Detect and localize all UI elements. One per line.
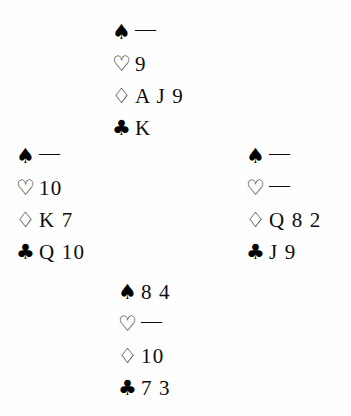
hand-south: ♠ 8 4 ♡ — ♢ 10 ♣ 7 3: [118, 282, 171, 410]
bridge-deal-diagram: ♠ — ♡ 9 ♢ A J 9 ♣ K ♠ — ♡ 10 ♢ K 7 ♣: [0, 0, 351, 416]
heart-icon: ♡: [112, 54, 135, 75]
heart-icon: ♡: [118, 314, 141, 335]
south-club-row: ♣ 7 3: [118, 378, 171, 410]
club-icon: ♣: [118, 378, 141, 399]
spade-icon: ♠: [118, 282, 141, 303]
club-icon: ♣: [16, 242, 39, 263]
north-spade-ranks: —: [135, 19, 156, 40]
south-diamond-row: ♢ 10: [118, 346, 171, 378]
diamond-icon: ♢: [246, 210, 269, 231]
diamond-icon: ♢: [118, 346, 141, 367]
south-diamond-ranks: 10: [141, 346, 164, 367]
heart-icon: ♡: [16, 178, 39, 199]
heart-icon: ♡: [246, 178, 269, 199]
west-club-row: ♣ Q 10: [16, 242, 85, 274]
north-club-ranks: K: [135, 118, 151, 139]
diamond-icon: ♢: [112, 86, 135, 107]
spade-icon: ♠: [246, 146, 269, 167]
north-diamond-ranks: A J 9: [135, 86, 184, 107]
hand-west: ♠ — ♡ 10 ♢ K 7 ♣ Q 10: [16, 146, 85, 274]
west-spade-ranks: —: [39, 143, 60, 164]
east-heart-ranks: —: [269, 175, 290, 196]
east-spade-ranks: —: [269, 143, 290, 164]
spade-icon: ♠: [112, 22, 135, 43]
east-club-ranks: J 9: [269, 242, 296, 263]
west-spade-row: ♠ —: [16, 146, 85, 178]
north-diamond-row: ♢ A J 9: [112, 86, 184, 118]
north-heart-row: ♡ 9: [112, 54, 184, 86]
west-club-ranks: Q 10: [39, 242, 85, 263]
west-diamond-ranks: K 7: [39, 210, 73, 231]
north-heart-ranks: 9: [135, 54, 147, 75]
north-club-row: ♣ K: [112, 118, 184, 150]
east-diamond-ranks: Q 8 2: [269, 210, 321, 231]
west-diamond-row: ♢ K 7: [16, 210, 85, 242]
south-heart-ranks: —: [141, 311, 162, 332]
east-heart-row: ♡ —: [246, 178, 321, 210]
diamond-icon: ♢: [16, 210, 39, 231]
north-spade-row: ♠ —: [112, 22, 184, 54]
spade-icon: ♠: [16, 146, 39, 167]
club-icon: ♣: [246, 242, 269, 263]
hand-east: ♠ — ♡ — ♢ Q 8 2 ♣ J 9: [246, 146, 321, 274]
east-diamond-row: ♢ Q 8 2: [246, 210, 321, 242]
south-heart-row: ♡ —: [118, 314, 171, 346]
south-club-ranks: 7 3: [141, 378, 171, 399]
east-club-row: ♣ J 9: [246, 242, 321, 274]
hand-north: ♠ — ♡ 9 ♢ A J 9 ♣ K: [112, 22, 184, 150]
west-heart-ranks: 10: [39, 178, 62, 199]
club-icon: ♣: [112, 118, 135, 139]
west-heart-row: ♡ 10: [16, 178, 85, 210]
south-spade-ranks: 8 4: [141, 282, 171, 303]
